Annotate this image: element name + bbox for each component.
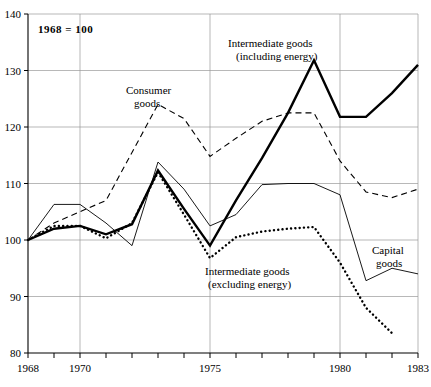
ytick-label-140: 140 [5,8,22,20]
intermediate-excluding-label-line1: Intermediate goods [205,265,290,277]
capital-goods-label-line1: Capital [372,244,404,256]
consumer-goods-label-line1: Consumer [126,84,172,96]
xtick-label-1983: 1983 [407,362,430,374]
consumer-goods-label-line2: goods [134,97,160,109]
ytick-label-130: 130 [5,65,22,77]
index-base-note: 1968 = 100 [38,23,93,35]
intermediate-including-label-line1: Intermediate goods [228,37,313,49]
xtick-label-1968: 1968 [17,362,40,374]
intermediate-including-label-line2: (including energy) [236,50,318,63]
intermediate-excluding-label-line2: (excluding energy) [208,278,292,291]
index-line-chart: 8090100110120130140 19681970197519801983… [0,0,431,387]
xtick-label-1975: 1975 [199,362,222,374]
chart-background [0,0,431,387]
ytick-label-100: 100 [5,234,22,246]
ytick-label-120: 120 [5,121,22,133]
xtick-label-1980: 1980 [329,362,352,374]
chart-container: 8090100110120130140 19681970197519801983… [0,0,431,387]
xtick-label-1970: 1970 [69,362,92,374]
ytick-label-90: 90 [10,291,22,303]
capital-goods-label-line2: goods [376,257,402,269]
ytick-label-80: 80 [10,347,22,359]
ytick-label-110: 110 [5,178,22,190]
